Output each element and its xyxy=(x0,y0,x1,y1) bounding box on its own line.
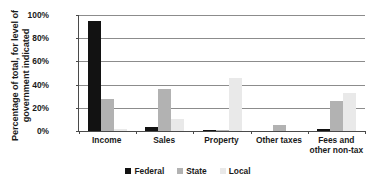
bar-state[interactable] xyxy=(158,89,171,131)
bar-local[interactable] xyxy=(171,119,184,131)
legend-item-federal[interactable]: Federal xyxy=(125,166,164,176)
legend-label: Federal xyxy=(134,166,164,176)
bar-chart-figure: Percentage of total, for level of govern… xyxy=(0,0,376,188)
x-tick-mark xyxy=(308,131,309,134)
legend-item-state[interactable]: State xyxy=(177,166,206,176)
legend-swatch-icon xyxy=(220,168,226,174)
x-tick-mark xyxy=(251,131,252,134)
x-tick-mark xyxy=(79,131,80,134)
plot-area: 0%20%40%60%80%100% xyxy=(78,15,365,132)
bar-state[interactable] xyxy=(101,99,114,131)
x-tick-mark xyxy=(365,131,366,134)
bar-federal[interactable] xyxy=(145,127,158,131)
bar-local[interactable] xyxy=(229,78,242,131)
legend-item-local[interactable]: Local xyxy=(220,166,251,176)
bar-federal[interactable] xyxy=(88,21,101,131)
legend-swatch-icon xyxy=(125,168,131,174)
bar-local[interactable] xyxy=(114,129,127,131)
y-tick-label: 20% xyxy=(17,103,49,113)
y-axis-title-text: Percentage of total, for level of govern… xyxy=(9,7,31,145)
bar-local[interactable] xyxy=(343,93,356,131)
legend-label: Local xyxy=(229,166,251,176)
y-tick-label: 0% xyxy=(17,126,49,136)
x-tick-mark xyxy=(136,131,137,134)
x-axis-label: Property xyxy=(193,136,250,160)
bar-group xyxy=(251,15,308,131)
y-tick-label: 80% xyxy=(17,33,49,43)
legend-swatch-icon xyxy=(177,168,183,174)
chart-legend: FederalStateLocal xyxy=(0,166,376,176)
bar-state[interactable] xyxy=(216,130,229,131)
bar-groups xyxy=(79,15,365,131)
y-tick-label: 60% xyxy=(17,56,49,66)
bar-group xyxy=(193,15,250,131)
bar-state[interactable] xyxy=(273,125,286,131)
bar-group xyxy=(79,15,136,131)
y-tick-label: 100% xyxy=(17,10,49,20)
bar-federal[interactable] xyxy=(317,129,330,131)
bar-state[interactable] xyxy=(330,101,343,131)
x-axis-label: Fees and other non-tax xyxy=(308,136,365,160)
x-tick-mark xyxy=(193,131,194,134)
x-axis-label: Other taxes xyxy=(250,136,307,160)
x-axis-label: Sales xyxy=(135,136,192,160)
legend-label: State xyxy=(186,166,206,176)
bar-federal[interactable] xyxy=(203,130,216,131)
x-axis-labels: IncomeSalesPropertyOther taxesFees and o… xyxy=(78,136,365,160)
bar-group xyxy=(136,15,193,131)
bar-group xyxy=(308,15,365,131)
x-axis-label: Income xyxy=(78,136,135,160)
y-tick-label: 40% xyxy=(17,80,49,90)
